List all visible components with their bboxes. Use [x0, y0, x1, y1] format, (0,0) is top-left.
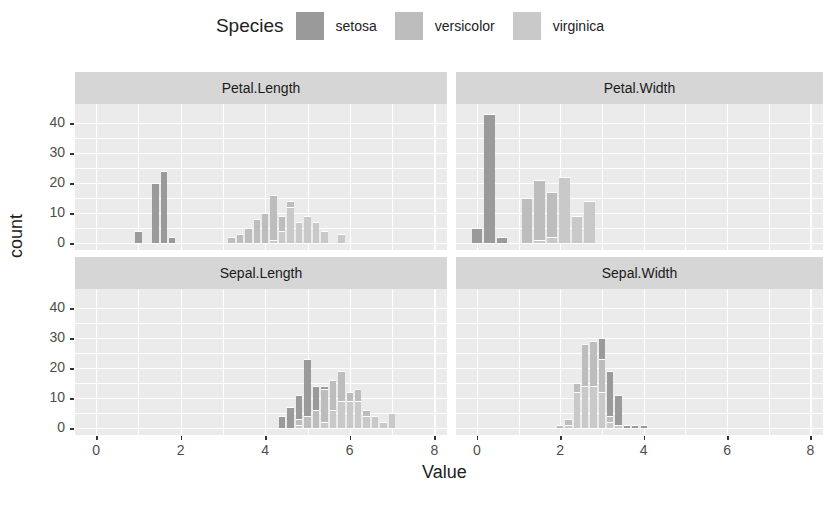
legend-label: setosa [336, 18, 377, 34]
histogram-bar-versicolor [607, 416, 613, 422]
histogram-bar-setosa [279, 416, 285, 428]
histogram-bar-versicolor [534, 180, 545, 240]
histogram-bar-virginica [599, 392, 605, 428]
histogram-bar-setosa [296, 395, 302, 419]
gridline-horizontal [456, 123, 823, 124]
histogram-bar-setosa [313, 386, 319, 410]
y-tick-label: 10 [25, 204, 65, 220]
histogram-bar-virginica [296, 425, 302, 428]
gridline-horizontal [456, 428, 823, 429]
histogram-bar-versicolor [338, 371, 344, 401]
facet-strip-label: Sepal.Width [456, 257, 823, 289]
gridline-horizontal [456, 198, 823, 199]
x-tick-label: 6 [717, 442, 737, 458]
y-tick-mark [70, 428, 74, 430]
histogram-bar-setosa [599, 338, 605, 359]
gridline-horizontal [456, 228, 823, 229]
legend-key-setosa [296, 12, 324, 40]
legend-label: versicolor [435, 18, 495, 34]
facet-panel-petal-width: Petal.Width [456, 72, 823, 250]
y-tick-mark [70, 308, 74, 310]
facet-panel-petal-length: Petal.Length010203040 [75, 72, 447, 250]
gridline-horizontal [75, 153, 447, 154]
histogram-bar-versicolor [262, 213, 268, 243]
gridline-horizontal [75, 428, 447, 429]
gridline-horizontal [456, 308, 823, 309]
y-tick-mark [70, 338, 74, 340]
y-tick-label: 10 [25, 389, 65, 405]
histogram-bar-versicolor [304, 416, 310, 428]
x-tick-mark [810, 436, 812, 440]
histogram-bar-virginica [534, 240, 545, 243]
histogram-bar-versicolor [270, 195, 276, 240]
histogram-bar-setosa [304, 359, 310, 416]
x-axis-title: Value [422, 462, 467, 483]
histogram-bar-virginica [574, 392, 580, 428]
y-tick-label: 0 [25, 234, 65, 250]
histogram-bar-virginica [372, 416, 378, 428]
legend-item-setosa: setosa [296, 12, 377, 40]
x-tick-label: 4 [634, 442, 654, 458]
gridline-horizontal [75, 168, 447, 169]
histogram-bar-virginica [389, 413, 395, 428]
x-tick-label: 4 [255, 442, 275, 458]
y-axis-title: count [6, 214, 27, 258]
histogram-bar-versicolor [237, 234, 243, 243]
x-tick-mark [265, 436, 267, 440]
y-tick-label: 30 [25, 144, 65, 160]
gridline-horizontal [75, 368, 447, 369]
y-tick-mark [70, 213, 74, 215]
histogram-bar-versicolor [287, 201, 293, 207]
gridline-horizontal [456, 153, 823, 154]
gridline-horizontal [456, 368, 823, 369]
facet-panel-sepal-width: Sepal.Width02468 [456, 257, 823, 435]
x-tick-mark [477, 436, 479, 440]
histogram-bar-versicolor [363, 410, 369, 416]
gridline-horizontal [75, 243, 447, 244]
x-tick-mark [96, 436, 98, 440]
x-tick-mark [727, 436, 729, 440]
histogram-bar-setosa [287, 407, 293, 428]
histogram-bar-setosa [169, 237, 175, 243]
y-tick-label: 40 [25, 299, 65, 315]
gridline-horizontal [456, 138, 823, 139]
gridline-horizontal [75, 323, 447, 324]
histogram-bar-versicolor [254, 219, 260, 243]
legend-key-virginica [513, 12, 541, 40]
histogram-bar-versicolor [330, 380, 336, 410]
histogram-bar-setosa [161, 171, 167, 243]
plot-area [456, 289, 823, 435]
x-tick-label: 8 [424, 442, 444, 458]
gridline-horizontal [456, 398, 823, 399]
histogram-bar-virginica [582, 386, 588, 428]
histogram-bar-versicolor [522, 198, 533, 243]
histogram-bar-versicolor [574, 383, 580, 392]
histogram-bar-virginica [270, 240, 276, 243]
histogram-bar-virginica [338, 234, 344, 243]
gridline-horizontal [75, 338, 447, 339]
histogram-bar-setosa [321, 386, 327, 389]
plot-area [75, 289, 447, 435]
gridline-horizontal [75, 383, 447, 384]
histogram-bar-versicolor [279, 216, 285, 231]
histogram-bar-setosa [135, 231, 141, 243]
x-tick-label: 2 [171, 442, 191, 458]
histogram-bar-virginica [380, 422, 386, 428]
histogram-bar-virginica [584, 201, 595, 243]
gridline-horizontal [75, 183, 447, 184]
histogram-bar-versicolor [590, 341, 596, 386]
histogram-bar-virginica [279, 231, 285, 243]
gridline-horizontal [456, 323, 823, 324]
histogram-bar-virginica [296, 222, 302, 243]
facet-strip-label: Petal.Length [75, 72, 447, 104]
y-tick-label: 20 [25, 174, 65, 190]
gridline-horizontal [75, 398, 447, 399]
histogram-bar-virginica [321, 231, 327, 243]
histogram-bar-virginica [355, 401, 361, 428]
legend-item-versicolor: versicolor [395, 12, 495, 40]
histogram-bar-setosa [624, 425, 630, 428]
histogram-bar-setosa [472, 228, 483, 243]
histogram-bar-versicolor [347, 392, 353, 401]
gridline-horizontal [456, 183, 823, 184]
y-tick-label: 40 [25, 114, 65, 130]
